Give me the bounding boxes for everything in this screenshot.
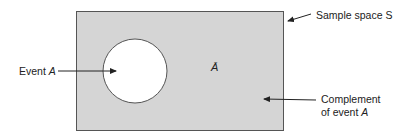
complement-label-symbol: A (361, 106, 368, 118)
complement-label: Complement of event A (321, 93, 381, 119)
complement-label-line2: of event A (321, 106, 381, 119)
event-a-label-text: Event (19, 65, 49, 77)
complement-label-line1: Complement (321, 93, 381, 106)
event-a-label: Event A (19, 65, 56, 78)
sample-space-label: Sample space S (316, 9, 392, 22)
complement-symbol: Ā (211, 61, 218, 74)
event-a-symbol: A (49, 65, 56, 77)
complement-label-line2-text: of event (321, 106, 361, 118)
sample-space-arrow (288, 14, 311, 21)
